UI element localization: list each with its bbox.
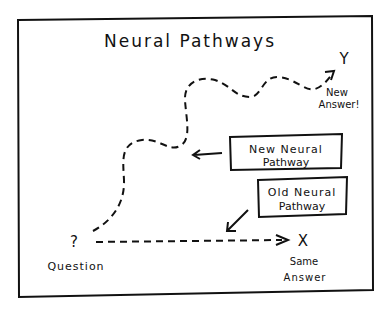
same-answer-label-line2: Answer bbox=[284, 272, 327, 283]
same-answer-label-line1: Same bbox=[290, 256, 318, 267]
new-answer-label-line2: Answer! bbox=[319, 99, 360, 110]
new-pathway-callout-arrow bbox=[193, 150, 222, 159]
same-answer-symbol: X bbox=[298, 232, 308, 250]
old-pathway-callout-line1: Old Neural bbox=[268, 186, 336, 199]
question-label: Question bbox=[47, 260, 104, 273]
new-answer-symbol: Y bbox=[338, 50, 349, 68]
old-pathway-line bbox=[96, 240, 282, 242]
diagram-title: Neural Pathways bbox=[104, 31, 276, 51]
old-pathway-callout-arrow bbox=[227, 210, 248, 231]
neural-pathways-diagram: Neural Pathways Y New Answer! ? Question… bbox=[0, 0, 390, 313]
new-answer-label-line1: New bbox=[326, 87, 348, 98]
question-symbol: ? bbox=[70, 233, 78, 251]
old-pathway-callout-line2: Pathway bbox=[279, 200, 326, 213]
new-pathway-callout-line1: New Neural bbox=[249, 143, 323, 156]
new-pathway-callout-line2: Pathway bbox=[263, 156, 310, 169]
